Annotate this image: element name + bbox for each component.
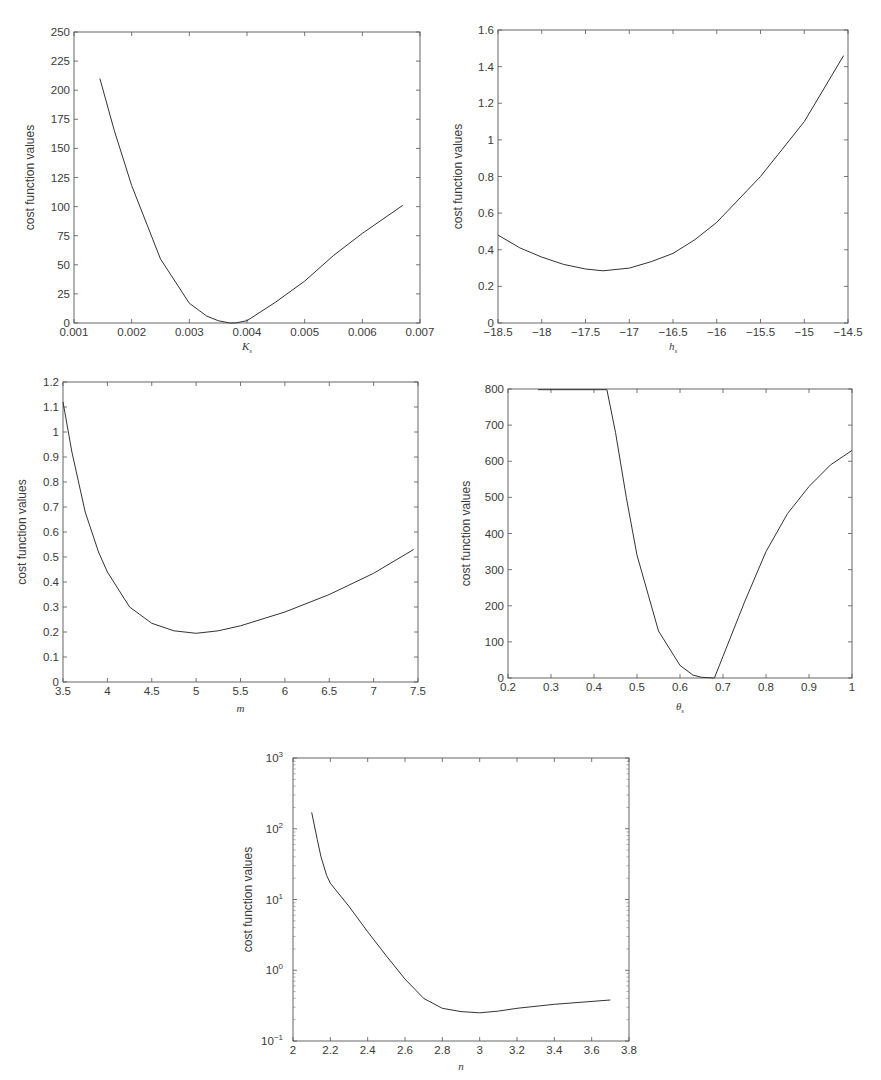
x-tick-label: −14.5 (833, 326, 862, 338)
x-tick-label: 3.4 (546, 1044, 563, 1056)
y-tick-label: 0.8 (478, 171, 494, 183)
y-tick-label: 1.2 (478, 97, 494, 109)
x-tick-label: 0.9 (801, 681, 817, 693)
x-tick-label: 0.006 (348, 326, 377, 338)
plot-frame (74, 32, 420, 323)
plot-frame (498, 30, 848, 323)
y-tick-label: 0 (53, 676, 59, 688)
y-axis-label: cost function values (451, 124, 465, 229)
x-tick-label: 1 (849, 681, 855, 693)
x-axis-label: hs (669, 340, 678, 355)
y-tick-label: 1.2 (43, 376, 59, 388)
x-tick-label: 3.6 (584, 1044, 600, 1056)
x-tick-label: 2 (290, 1044, 296, 1056)
chart-n: 22.22.42.62.833.23.43.63.810−11001011021… (241, 750, 637, 1072)
x-tick-label: 3.2 (509, 1044, 525, 1056)
y-tick-label: 0.9 (43, 451, 59, 463)
y-tick-label: 0.4 (43, 576, 60, 588)
data-curve (100, 79, 403, 323)
y-tick-label: 0 (488, 317, 494, 329)
y-tick-label: 100 (51, 201, 70, 213)
y-tick-label: 0.1 (43, 651, 59, 663)
y-tick-label: 0.3 (43, 601, 59, 613)
y-tick-label: 1 (53, 426, 59, 438)
chart-ks: 0.0010.0020.0030.0040.0050.0060.00702550… (23, 26, 434, 355)
y-axis-label: cost function values (15, 479, 29, 584)
figure-canvas: 0.0010.0020.0030.0040.0050.0060.00702550… (0, 0, 881, 1080)
x-tick-label: −15 (794, 326, 814, 338)
y-tick-label: 200 (51, 84, 70, 96)
x-tick-label: 3.8 (621, 1044, 637, 1056)
data-curve (498, 56, 844, 271)
data-curve (538, 390, 852, 678)
y-tick-label: 101 (266, 892, 284, 906)
y-tick-label: 25 (57, 288, 70, 300)
x-tick-label: 0.002 (117, 326, 146, 338)
x-tick-label: 6.5 (321, 685, 337, 697)
x-tick-label: 0.7 (715, 681, 731, 693)
y-tick-label: 0.2 (478, 280, 494, 292)
y-tick-label: 700 (485, 419, 504, 431)
x-tick-label: 0.004 (233, 326, 262, 338)
y-tick-label: 400 (485, 528, 504, 540)
y-tick-label: 175 (51, 113, 70, 125)
y-tick-label: 225 (51, 55, 70, 67)
x-tick-label: 2.8 (434, 1044, 450, 1056)
x-tick-label: 0.007 (406, 326, 435, 338)
x-tick-label: 4.5 (144, 685, 160, 697)
y-tick-label: 100 (485, 636, 504, 648)
y-tick-label: 10−1 (261, 1033, 283, 1047)
x-tick-label: −16 (707, 326, 727, 338)
y-tick-label: 500 (485, 491, 504, 503)
x-tick-label: 5.5 (233, 685, 249, 697)
y-tick-label: 100 (266, 962, 284, 976)
y-tick-label: 103 (266, 750, 284, 764)
x-axis-label: m (237, 702, 245, 714)
y-tick-label: 0.5 (43, 551, 59, 563)
x-tick-label: 2.6 (397, 1044, 413, 1056)
y-tick-label: 150 (51, 142, 70, 154)
y-tick-label: 0.7 (43, 501, 59, 513)
data-curve (63, 402, 414, 633)
chart-m: 3.544.555.566.577.500.10.20.30.40.50.60.… (15, 376, 426, 714)
y-tick-label: 125 (51, 172, 70, 184)
y-tick-label: 200 (485, 600, 504, 612)
plot-frame (63, 382, 418, 682)
x-tick-label: 2.4 (360, 1044, 377, 1056)
y-tick-label: 50 (57, 259, 70, 271)
y-tick-label: 1.4 (478, 61, 495, 73)
x-tick-label: 0.6 (672, 681, 688, 693)
y-tick-label: 800 (485, 383, 504, 395)
y-tick-label: 1 (488, 134, 494, 146)
x-tick-label: 5 (193, 685, 199, 697)
y-tick-label: 0.4 (478, 244, 495, 256)
x-tick-label: 0.8 (758, 681, 774, 693)
y-tick-label: 300 (485, 564, 504, 576)
y-tick-label: 0.2 (43, 626, 59, 638)
x-tick-label: 7 (370, 685, 376, 697)
y-tick-label: 1.6 (478, 24, 494, 36)
x-tick-label: 0.5 (629, 681, 645, 693)
chart-thetas: 0.20.30.40.50.60.70.80.91010020030040050… (459, 383, 855, 715)
y-tick-label: 600 (485, 455, 504, 467)
figure: 0.0010.0020.0030.0040.0050.0060.00702550… (0, 0, 881, 1080)
x-tick-label: 4 (104, 685, 111, 697)
x-tick-label: −17 (619, 326, 639, 338)
x-tick-label: 0.3 (543, 681, 559, 693)
y-tick-label: 75 (57, 230, 70, 242)
x-tick-label: −17.5 (571, 326, 600, 338)
x-tick-label: 0.4 (586, 681, 603, 693)
y-tick-label: 0 (498, 672, 504, 684)
x-tick-label: 6 (282, 685, 288, 697)
x-tick-label: 2.2 (322, 1044, 338, 1056)
y-tick-label: 0.6 (478, 207, 494, 219)
chart-hs: −18.5−18−17.5−17−16.5−16−15.5−15−14.500.… (451, 24, 863, 355)
x-axis-label: θs (676, 700, 684, 715)
x-axis-label: n (458, 1060, 464, 1072)
y-tick-label: 1.1 (43, 401, 59, 413)
y-tick-label: 0.6 (43, 526, 59, 538)
plot-frame (508, 389, 852, 678)
data-curve (312, 812, 611, 1012)
x-tick-label: 3 (476, 1044, 482, 1056)
y-axis-label: cost function values (459, 481, 473, 586)
